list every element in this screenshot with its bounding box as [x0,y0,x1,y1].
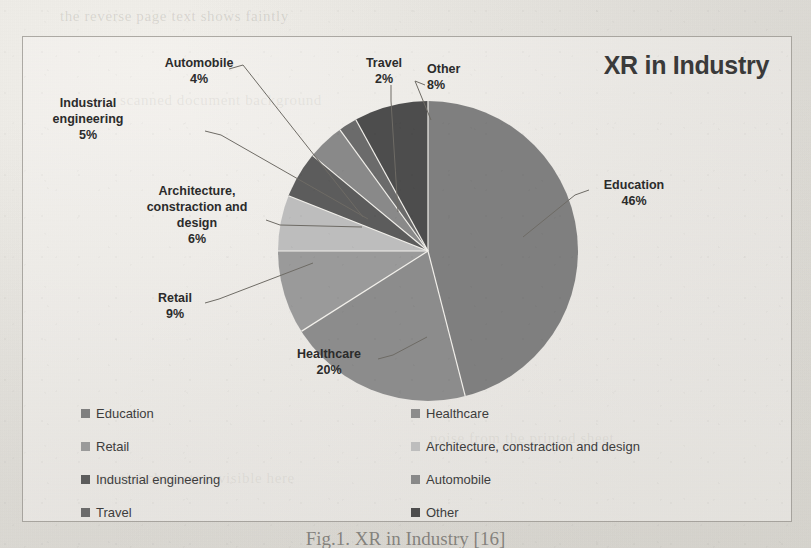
callout-other-value: 8% [427,77,487,93]
legend-column-right: HealthcareArchitecture, constraction and… [411,397,640,529]
callout-travel-label: Travel [366,56,402,70]
chart-title: XR in Industry [604,51,769,80]
callout-travel-value: 2% [353,71,415,87]
callout-education-value: 46% [593,193,675,209]
legend-item-label: Travel [96,505,132,520]
figure-caption: Fig.1. XR in Industry [16] [0,528,811,548]
legend-item[interactable]: Other [411,496,640,529]
legend-swatch-icon [81,442,90,451]
callout-other-label: Other [427,62,460,76]
legend-item[interactable]: Retail [81,430,220,463]
legend-item[interactable]: Travel [81,496,220,529]
callout-architecture: Architecture, constraction and design 6% [129,183,265,247]
callout-automobile-value: 4% [153,71,245,87]
callout-architecture-label-2: constraction and [147,200,248,214]
legend-swatch-icon [81,475,90,484]
legend-item[interactable]: Architecture, constraction and design [411,430,640,463]
legend-swatch-icon [411,508,420,517]
callout-healthcare-value: 20% [282,362,376,378]
callout-healthcare-label: Healthcare [297,347,361,361]
legend-swatch-icon [81,409,90,418]
legend-item-label: Education [96,406,154,421]
chart-frame: XR in Industry Automobile [22,36,792,522]
legend-item-label: Retail [96,439,129,454]
legend-item[interactable]: Education [81,397,220,430]
callout-architecture-label-3: design [177,216,217,230]
callout-other: Other 8% [427,61,487,93]
callout-automobile-label: Automobile [165,56,234,70]
callout-healthcare: Healthcare 20% [282,346,376,378]
callout-architecture-value: 6% [129,231,265,247]
legend-swatch-icon [81,508,90,517]
legend-item[interactable]: Automobile [411,463,640,496]
callout-travel: Travel 2% [353,55,415,87]
callout-retail-label: Retail [158,291,192,305]
callout-industrial-engineering: Industrial engineering 5% [33,95,143,143]
callout-automobile: Automobile 4% [153,55,245,87]
callout-retail-value: 9% [147,306,203,322]
legend-item[interactable]: Healthcare [411,397,640,430]
callout-architecture-label-1: Architecture, [158,184,235,198]
legend-swatch-icon [411,475,420,484]
callout-industrial-engineering-label-1: Industrial [60,96,116,110]
callout-education: Education 46% [593,177,675,209]
callout-education-label: Education [604,178,664,192]
legend-item-label: Other [426,505,459,520]
legend-item-label: Healthcare [426,406,489,421]
callout-industrial-engineering-label-2: engineering [53,112,124,126]
legend-item[interactable]: Industrial engineering [81,463,220,496]
legend-item-label: Architecture, constraction and design [426,439,640,454]
legend-column-left: EducationRetailIndustrial engineeringTra… [81,397,220,529]
callout-industrial-engineering-value: 5% [33,127,143,143]
legend-item-label: Industrial engineering [96,472,220,487]
legend-item-label: Automobile [426,472,491,487]
legend-swatch-icon [411,409,420,418]
legend-swatch-icon [411,442,420,451]
callout-retail: Retail 9% [147,290,203,322]
